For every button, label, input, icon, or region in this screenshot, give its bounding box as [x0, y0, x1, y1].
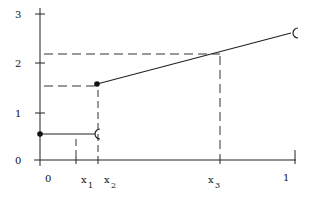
- segment-2: [97, 33, 291, 84]
- x-label-x3: x: [208, 174, 214, 185]
- x-label-1: 1: [283, 172, 289, 183]
- closed-point-1: [37, 131, 43, 137]
- step-function-chart: 3 2 1 0 0 x 1 x 2 x 3 1: [0, 0, 316, 199]
- x-label-x1: x: [81, 174, 87, 185]
- x-label-x3-sub: 3: [215, 181, 220, 190]
- y-label-0: 0: [15, 155, 21, 166]
- y-label-3: 3: [15, 9, 21, 20]
- open-endpoint-2: [293, 28, 298, 38]
- x-label-x2-sub: 2: [111, 181, 116, 190]
- x-label-x2: x: [104, 174, 110, 185]
- closed-point-2: [94, 81, 100, 87]
- y-label-2: 2: [15, 58, 21, 69]
- x-label-x1-sub: 1: [88, 181, 93, 190]
- x-label-0: 0: [45, 173, 51, 184]
- y-label-1: 1: [15, 108, 21, 119]
